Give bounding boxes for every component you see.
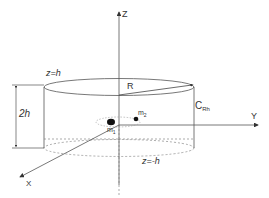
x-axis-label: X [26, 180, 31, 188]
cylinder-diagram [0, 0, 269, 198]
mass-1-label-sub: 1 [113, 129, 116, 135]
bottom-plane-label: z=-h [142, 157, 160, 166]
mass-1 [107, 119, 115, 125]
mass-2-label-sub: 2 [144, 112, 147, 118]
y-axis-label: Y [251, 112, 257, 121]
height-label: 2h [19, 109, 30, 119]
z-axis-label: Z [122, 10, 128, 19]
mass-1-label: m1 [107, 126, 116, 135]
cylinder-label: CRh [195, 101, 210, 112]
x-axis [20, 125, 119, 177]
cylinder-label-sub: Rh [202, 106, 210, 112]
radius-label: R [127, 82, 134, 91]
top-plane-label: z=h [46, 69, 61, 78]
mass-2-label: m2 [138, 109, 147, 118]
